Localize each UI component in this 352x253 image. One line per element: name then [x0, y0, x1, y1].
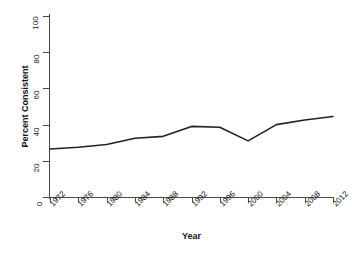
- plot-area: [50, 16, 333, 197]
- x-axis-title: Year: [49, 230, 334, 242]
- y-tick-label: 60: [0, 83, 42, 93]
- line-chart: Percent Consistent 020406080100 19721976…: [0, 0, 352, 253]
- y-tick-label: 80: [0, 47, 42, 57]
- y-axis-title: Percent Consistent: [18, 16, 32, 197]
- y-tick-label: 20: [0, 156, 42, 166]
- y-tick-label: 40: [0, 120, 42, 130]
- y-tick-label: 100: [0, 11, 42, 21]
- y-tick-label: 0: [0, 192, 42, 202]
- series-line-percent-consistent: [50, 16, 333, 197]
- x-tick-label: 2012: [331, 189, 350, 208]
